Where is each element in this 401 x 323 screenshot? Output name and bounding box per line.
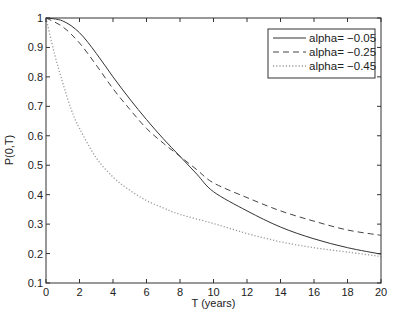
- legend: alpha= −0.05alpha= −0.25alpha= −0.45: [268, 29, 376, 78]
- legend-label: alpha= −0.05: [309, 32, 376, 44]
- y-tick-label: 0.3: [28, 218, 43, 230]
- y-tick-label: 0.9: [28, 41, 43, 53]
- legend-label: alpha= −0.45: [309, 60, 376, 72]
- x-axis-label: T (years): [192, 297, 236, 309]
- y-tick-label: 1: [37, 12, 43, 24]
- y-tick-label: 0.8: [28, 71, 43, 83]
- y-tick-label: 0.2: [28, 248, 43, 260]
- y-axis-label: P(0,T): [3, 135, 15, 166]
- line-chart: 02468101214161820 0.10.20.30.40.50.60.70…: [0, 0, 401, 323]
- x-tick-label: 20: [375, 286, 387, 298]
- y-tick-label: 0.6: [28, 130, 43, 142]
- legend-label: alpha= −0.25: [309, 46, 376, 58]
- x-tick-label: 6: [143, 286, 149, 298]
- x-tick-label: 16: [308, 286, 320, 298]
- y-tick-label: 0.1: [28, 277, 43, 289]
- x-tick-label: 8: [177, 286, 183, 298]
- y-tick-label: 0.7: [28, 100, 43, 112]
- x-tick-label: 18: [341, 286, 353, 298]
- y-tick-label: 0.5: [28, 159, 43, 171]
- x-tick-label: 4: [110, 286, 116, 298]
- y-tick-label: 0.4: [28, 189, 43, 201]
- x-tick-label: 12: [241, 286, 253, 298]
- x-tick-label: 14: [274, 286, 286, 298]
- x-tick-label: 2: [76, 286, 82, 298]
- x-tick-label: 0: [43, 286, 49, 298]
